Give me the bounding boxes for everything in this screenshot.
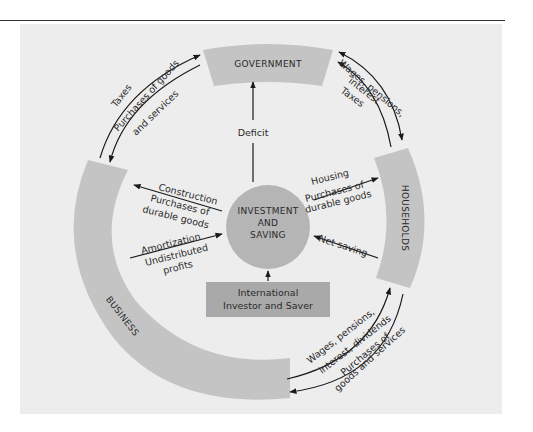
household-investment-flows: Housing Purchases of durable goods Net s… — [304, 167, 378, 259]
net-saving-label: Net saving — [317, 232, 369, 258]
investment-saving-node: INVESTMENT AND SAVING — [226, 185, 310, 269]
gov-households-flows: Wages, pensions, interest Taxes — [337, 52, 407, 147]
government-label: GOVERNMENT — [234, 59, 302, 69]
center-label-line2: AND — [258, 218, 279, 228]
international-label-line1: International — [238, 287, 299, 298]
deficit-flow: Deficit — [238, 82, 269, 182]
center-label-line3: SAVING — [250, 230, 286, 240]
circular-flow-diagram: GOVERNMENT HOUSEHOLDS BUSINESS INVESTMEN… — [0, 0, 533, 432]
international-label-line2: Investor and Saver — [223, 300, 313, 311]
international-investor-node: International Investor and Saver — [206, 282, 330, 317]
business-investment-flows: Construction Purchases of durable goods … — [130, 181, 222, 276]
deficit-label: Deficit — [238, 127, 269, 138]
government-sector: GOVERNMENT — [203, 44, 333, 86]
gov-business-flows: Taxes Purchases of goods and services — [100, 55, 200, 162]
households-sector: HOUSEHOLDS — [374, 148, 425, 288]
households-label: HOUSEHOLDS — [400, 185, 410, 251]
center-label-line1: INVESTMENT — [237, 206, 298, 216]
